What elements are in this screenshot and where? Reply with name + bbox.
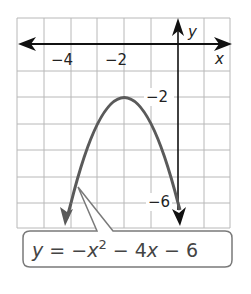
- graph: y x −4 −2 −2 −6 y = −x2 − 4x − 6: [0, 0, 251, 294]
- y-tick-minus-2: −2: [146, 88, 168, 106]
- x-axis: [18, 37, 232, 51]
- y-axis-label: y: [187, 23, 198, 41]
- y-axis: [172, 18, 184, 210]
- equation-label: y = −x2 − 4x − 6: [31, 237, 198, 261]
- y-tick-minus-6: −6: [148, 193, 170, 211]
- grid: [17, 18, 230, 228]
- x-axis-label: x: [214, 50, 224, 68]
- equation-callout: y = −x2 − 4x − 6: [23, 187, 232, 267]
- x-tick-minus-2: −2: [105, 51, 127, 69]
- x-tick-minus-4: −4: [51, 51, 73, 69]
